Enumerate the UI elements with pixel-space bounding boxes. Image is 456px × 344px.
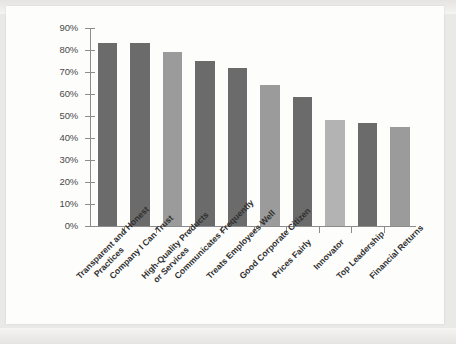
bar [163,52,183,226]
y-axis-tick-label: 90% [38,22,78,33]
y-axis-tick-mark [85,226,95,227]
y-axis-tick-label: 50% [38,110,78,121]
x-axis-tick-mark [351,227,352,233]
scan-artifact-bottom [0,328,456,344]
y-axis-tick-label: 20% [38,176,78,187]
bar [325,120,345,226]
bar [260,85,280,226]
y-axis-tick-label: 30% [38,154,78,165]
bar [98,43,118,226]
bars-container [91,28,416,226]
bar [130,43,150,226]
y-axis-tick-label: 0% [38,220,78,231]
y-axis-tick-label: 10% [38,198,78,209]
x-axis-tick-mark [319,227,320,233]
bar [293,97,313,226]
y-axis-tick-label: 60% [38,88,78,99]
bar-chart: 0%10%20%30%40%50%60%70%80%90% Transparen… [6,6,444,324]
y-axis-tick-label: 80% [38,44,78,55]
y-axis-tick-label: 70% [38,66,78,77]
bar [390,127,410,226]
chart-page-card: 0%10%20%30%40%50%60%70%80%90% Transparen… [6,6,444,324]
y-axis-tick-label: 40% [38,132,78,143]
bar [195,61,215,226]
bar [358,123,378,226]
x-axis-tick-mark [384,227,385,233]
